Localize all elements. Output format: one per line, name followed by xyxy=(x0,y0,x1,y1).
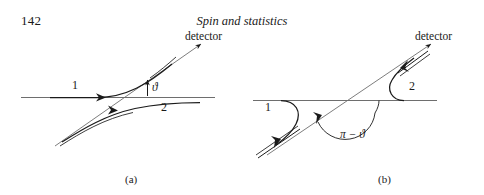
panel-a-graphics xyxy=(21,44,215,146)
panel-b-angle-arc-arrowhead xyxy=(313,112,322,124)
panel-b-beam-1-stroke-b xyxy=(256,126,298,155)
panel-a-detector-line xyxy=(55,44,201,146)
panel-b-trajectory-2-label: 2 xyxy=(409,80,415,93)
panel-b-caption: (b) xyxy=(378,173,391,186)
panel-b-angle-label: π − ϑ xyxy=(340,128,365,141)
panel-a-caption: (a) xyxy=(125,173,137,186)
panel-b-beam-1-stroke-a xyxy=(258,129,300,158)
panel-a-detector-label: detector xyxy=(185,30,222,43)
panel-a-angle-label: ϑ xyxy=(152,81,158,94)
panel-b-detector-label: detector xyxy=(415,30,452,43)
panel-b-trajectory-1-label: 1 xyxy=(265,101,271,114)
panel-b-angle-arc-tail xyxy=(375,101,379,114)
book-page: 142 Spin and statistics xyxy=(0,0,484,195)
panel-a-trajectory-2 xyxy=(62,103,200,143)
scattering-figure: detector 1 2 ϑ (a) detector 1 2 π − ϑ (b… xyxy=(0,0,484,195)
panel-a-trajectory-1-label: 1 xyxy=(72,79,78,92)
panel-a-trajectory-1-head-stroke xyxy=(150,57,176,78)
panel-a-trajectory-2-label: 2 xyxy=(161,101,167,114)
figure-vector-layer xyxy=(0,0,484,195)
panel-b-beam-2-stroke-a xyxy=(398,51,428,73)
